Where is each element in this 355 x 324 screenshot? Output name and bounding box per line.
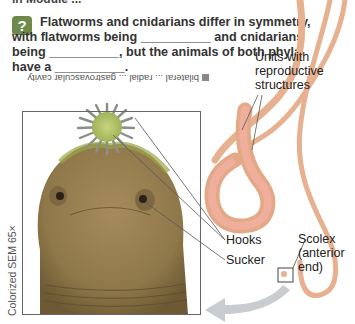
- label-scolex: Scolex (anterior end): [298, 232, 353, 274]
- photo-caption: Colorized SEM 65×: [6, 225, 18, 316]
- label-hooks: Hooks: [226, 233, 261, 247]
- magnify-arrow: [205, 285, 290, 322]
- photo-frame: [22, 111, 201, 315]
- label-sucker: Sucker: [226, 253, 265, 267]
- label-reproductive-units: Units with reproductive structures: [255, 50, 325, 92]
